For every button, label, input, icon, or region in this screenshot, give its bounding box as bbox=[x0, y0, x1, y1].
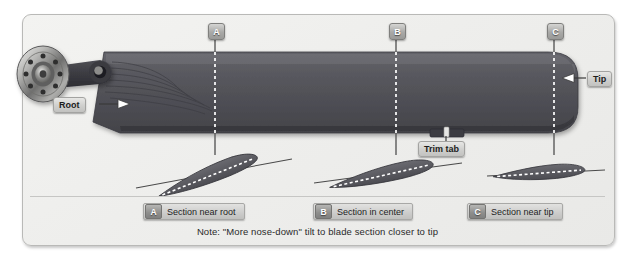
section-legend-b-badge: B bbox=[315, 204, 332, 219]
airfoil-section-a bbox=[136, 149, 292, 201]
section-legend-b[interactable]: B Section in center bbox=[313, 203, 413, 220]
station-marker-a-letter: A bbox=[213, 27, 220, 37]
callout-root[interactable]: Root bbox=[53, 97, 86, 113]
callout-trim-tab[interactable]: Trim tab bbox=[418, 141, 465, 157]
section-legend-a-badge: A bbox=[145, 204, 162, 219]
note-divider bbox=[30, 196, 605, 197]
figure-propeller-blade-twist: A B C Root Tip Trim tab A Section near r… bbox=[0, 0, 635, 261]
callout-tip-label: Tip bbox=[593, 74, 606, 84]
section-legend-a-label: Section near root bbox=[167, 207, 244, 217]
blade-illustration bbox=[0, 0, 635, 261]
callout-tip[interactable]: Tip bbox=[587, 71, 612, 87]
section-legend-c-label: Section near tip bbox=[491, 207, 562, 217]
station-marker-a[interactable]: A bbox=[208, 23, 225, 40]
section-legend-b-label: Section in center bbox=[337, 207, 412, 217]
airfoil-section-b bbox=[314, 156, 462, 192]
section-legend-a[interactable]: A Section near root bbox=[143, 203, 245, 220]
callout-trim-tab-label: Trim tab bbox=[424, 144, 459, 154]
section-legend-c-badge: C bbox=[469, 204, 486, 219]
station-marker-b-letter: B bbox=[394, 27, 401, 37]
airfoil-section-c bbox=[487, 163, 605, 182]
figure-note: Note: "More nose-down" tilt to blade sec… bbox=[30, 226, 605, 237]
station-marker-c[interactable]: C bbox=[547, 23, 564, 40]
station-marker-b[interactable]: B bbox=[389, 23, 406, 40]
section-legend-c[interactable]: C Section near tip bbox=[467, 203, 563, 220]
station-marker-c-letter: C bbox=[552, 27, 559, 37]
callout-root-label: Root bbox=[59, 100, 80, 110]
